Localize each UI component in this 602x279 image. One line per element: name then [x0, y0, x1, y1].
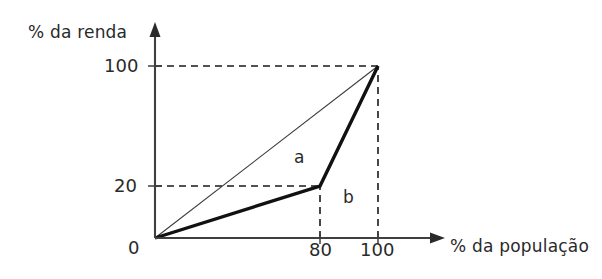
y-axis-arrowhead — [150, 22, 161, 37]
x-axis-arrowhead — [430, 233, 445, 244]
y-axis-title: % da renda — [28, 24, 127, 41]
y-tick-label-20: 20 — [114, 177, 137, 195]
x-tick-label-100: 100 — [360, 241, 394, 259]
lorenz-curve-figure: % da renda 100 20 0 80 100 % da populaçã… — [0, 0, 602, 279]
x-axis-title: % da população — [450, 238, 589, 255]
region-label-b: b — [343, 189, 354, 206]
origin-label: 0 — [128, 239, 139, 257]
equality-line — [155, 66, 378, 238]
region-label-a: a — [294, 149, 304, 166]
x-tick-label-80: 80 — [309, 241, 332, 259]
y-tick-label-100: 100 — [104, 57, 138, 75]
